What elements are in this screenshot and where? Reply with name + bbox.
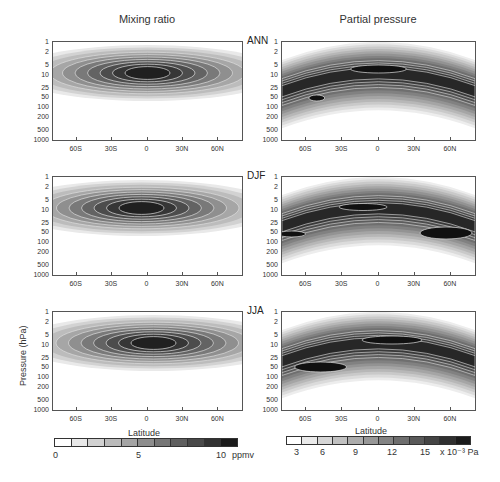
- x-axis-label-right: Latitude: [355, 426, 387, 436]
- x-tick-30s: 30S: [99, 280, 123, 287]
- y-tick-50: 50: [25, 228, 49, 235]
- colorbar-mixing-ratio: [54, 438, 238, 447]
- y-tick-100: 100: [25, 103, 49, 110]
- y-tick-100: 100: [254, 373, 278, 380]
- x-tick-30s: 30S: [99, 145, 123, 152]
- x-tick-mark: [378, 137, 379, 140]
- y-tick-500: 500: [254, 126, 278, 133]
- colorbar-swatch: [122, 439, 139, 446]
- panel-djf-mixing-ratio: [52, 176, 243, 276]
- x-tick-mark: [217, 137, 218, 140]
- x-tick-60n: 60N: [205, 415, 229, 422]
- x-tick-mark: [111, 137, 112, 140]
- y-tick-10: 10: [25, 71, 49, 78]
- y-tick-500: 500: [254, 396, 278, 403]
- x-tick-mark: [378, 272, 379, 275]
- x-tick-mark: [305, 407, 306, 410]
- colorbar-swatch: [440, 437, 455, 444]
- colorbar-swatch: [348, 437, 363, 444]
- x-tick-30n: 30N: [402, 145, 426, 152]
- colorbar-tick-0: 0: [53, 450, 58, 460]
- colorbar-tick-12: 12: [387, 447, 397, 457]
- y-tick-1000: 1000: [25, 136, 49, 143]
- x-tick-mark: [182, 272, 183, 275]
- x-tick-mark: [414, 137, 415, 140]
- column-title-partial-pressure: Partial pressure: [281, 13, 475, 25]
- x-tick-mark: [341, 137, 342, 140]
- y-tick-2: 2: [254, 183, 278, 190]
- panel-ann-mixing-ratio: [52, 41, 243, 141]
- x-tick-mark: [182, 137, 183, 140]
- x-tick-0: 0: [135, 280, 159, 287]
- y-tick-500: 500: [25, 396, 49, 403]
- y-tick-25: 25: [25, 219, 49, 226]
- y-tick-5: 5: [25, 331, 49, 338]
- y-tick-100: 100: [254, 238, 278, 245]
- colorbar-swatch: [302, 437, 317, 444]
- x-tick-0: 0: [135, 415, 159, 422]
- y-tick-1: 1: [25, 308, 49, 315]
- x-tick-mark: [450, 407, 451, 410]
- x-tick-30s: 30S: [329, 415, 353, 422]
- colorbar-swatch: [364, 437, 379, 444]
- x-tick-mark: [76, 272, 77, 275]
- y-tick-500: 500: [254, 261, 278, 268]
- colorbar-tick-9: 9: [353, 447, 358, 457]
- panel-djf-partial-pressure: [281, 176, 476, 276]
- x-tick-mark: [76, 407, 77, 410]
- x-tick-30n: 30N: [170, 145, 194, 152]
- y-tick-2: 2: [25, 318, 49, 325]
- y-tick-25: 25: [254, 219, 278, 226]
- y-tick-1: 1: [25, 38, 49, 45]
- y-tick-500: 500: [25, 126, 49, 133]
- y-tick-200: 200: [254, 248, 278, 255]
- y-tick-200: 200: [25, 248, 49, 255]
- colorbar-tick-10: 10: [216, 450, 226, 460]
- x-tick-mark: [378, 407, 379, 410]
- y-axis-label: Pressure (hPa): [18, 325, 28, 386]
- x-tick-mark: [414, 272, 415, 275]
- y-tick-2: 2: [254, 318, 278, 325]
- season-label-jja: JJA: [247, 305, 264, 316]
- colorbar-swatch: [171, 439, 188, 446]
- colorbar-swatch: [72, 439, 89, 446]
- x-tick-30n: 30N: [402, 415, 426, 422]
- y-tick-100: 100: [25, 238, 49, 245]
- y-tick-50: 50: [254, 228, 278, 235]
- y-tick-10: 10: [254, 206, 278, 213]
- x-tick-60s: 60S: [64, 280, 88, 287]
- y-tick-2: 2: [254, 48, 278, 55]
- x-tick-mark: [147, 272, 148, 275]
- season-label-ann: ANN: [247, 35, 268, 46]
- colorbar-swatch: [318, 437, 333, 444]
- colorbar-swatch: [188, 439, 205, 446]
- x-tick-60n: 60N: [438, 280, 462, 287]
- y-tick-5: 5: [254, 196, 278, 203]
- x-tick-mark: [341, 272, 342, 275]
- colorbar-swatch: [333, 437, 348, 444]
- colorbar-swatch: [105, 439, 122, 446]
- y-tick-100: 100: [254, 103, 278, 110]
- y-tick-1: 1: [25, 173, 49, 180]
- colorbar-unit-ppmv: ppmv: [232, 450, 254, 460]
- y-tick-200: 200: [25, 113, 49, 120]
- y-tick-1000: 1000: [254, 271, 278, 278]
- x-tick-60n: 60N: [205, 145, 229, 152]
- y-tick-2: 2: [25, 48, 49, 55]
- y-tick-10: 10: [254, 71, 278, 78]
- column-title-mixing-ratio: Mixing ratio: [52, 13, 242, 25]
- colorbar-tick-6: 6: [320, 447, 325, 457]
- panel-ann-partial-pressure: [281, 41, 476, 141]
- x-tick-0: 0: [366, 415, 390, 422]
- x-tick-mark: [217, 272, 218, 275]
- y-tick-5: 5: [25, 196, 49, 203]
- y-tick-25: 25: [25, 84, 49, 91]
- y-tick-50: 50: [25, 93, 49, 100]
- colorbar-swatch: [425, 437, 440, 444]
- y-tick-50: 50: [254, 363, 278, 370]
- x-tick-30n: 30N: [170, 415, 194, 422]
- y-tick-200: 200: [254, 113, 278, 120]
- y-tick-5: 5: [25, 61, 49, 68]
- x-tick-mark: [147, 407, 148, 410]
- x-tick-mark: [111, 272, 112, 275]
